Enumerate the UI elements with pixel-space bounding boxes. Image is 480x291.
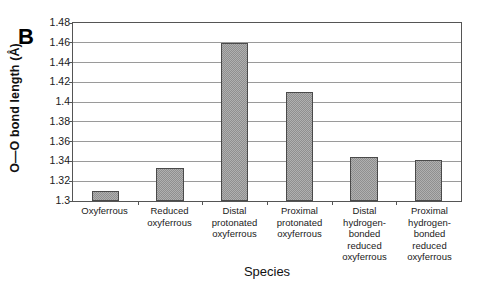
y-tick-mark	[69, 42, 73, 43]
x-tick-label: Oxyferrous	[72, 205, 137, 267]
x-tick-label: Distalprotonatedoxyferrous	[202, 205, 267, 267]
x-axis-title: Species	[72, 264, 462, 279]
y-tick-mark	[69, 82, 73, 83]
x-tick-label-line: oxyferrous	[138, 217, 201, 229]
y-tick-mark	[69, 23, 73, 24]
y-tick-mark	[69, 161, 73, 162]
y-tick-mark	[69, 102, 73, 103]
y-tick-mark	[69, 121, 73, 122]
bar	[221, 43, 248, 201]
gridline	[73, 121, 461, 122]
gridline	[73, 141, 461, 142]
plot-area	[72, 22, 462, 202]
y-tick-mark	[69, 141, 73, 142]
y-tick-mark	[69, 201, 73, 202]
gridline	[73, 161, 461, 162]
x-tick-label: Distalhydrogen-bondedreducedoxyferrous	[332, 205, 397, 267]
x-tick-label-line: Proximal	[268, 205, 331, 217]
x-tick-label-line: reduced	[333, 240, 396, 252]
bar	[415, 160, 442, 201]
x-axis-tick-labels: OxyferrousReducedoxyferrousDistalprotona…	[72, 205, 462, 267]
x-tick-label-line: protonated	[268, 217, 331, 229]
x-tick-label: Proximalhydrogen-bondedreducedoxyferrous	[397, 205, 462, 267]
x-tick-label-line: reduced	[398, 240, 461, 252]
y-axis-title-text: O—O bond length (Å)	[8, 43, 22, 173]
x-tick-label: Reducedoxyferrous	[137, 205, 202, 267]
panel-label-b: B	[18, 26, 34, 48]
x-tick-label-line: bonded	[398, 228, 461, 240]
x-tick-label-line: oxyferrous	[268, 228, 331, 240]
y-tick-mark	[69, 181, 73, 182]
y-tick-label: 1.38	[34, 116, 70, 127]
x-tick-label-line: Distal	[203, 205, 266, 217]
y-tick-label: 1.48	[34, 17, 70, 28]
y-tick-label: 1.3	[34, 195, 70, 206]
x-tick-label-line: Reduced	[138, 205, 201, 217]
y-axis-tick-labels: 1.481.461.441.421.41.381.361.341.321.3	[30, 0, 70, 291]
x-tick-label-line: oxyferrous	[398, 251, 461, 263]
y-tick-mark	[69, 62, 73, 63]
x-tick-label-line: Proximal	[398, 205, 461, 217]
y-tick-label: 1.34	[34, 155, 70, 166]
x-tick-label-line: hydrogen-	[398, 217, 461, 229]
bar	[92, 191, 119, 201]
x-tick-label-line: Distal	[333, 205, 396, 217]
x-tick-label-line: hydrogen-	[333, 217, 396, 229]
gridline	[73, 82, 461, 83]
x-tick-label-line: oxyferrous	[333, 251, 396, 263]
bar	[156, 168, 183, 201]
bar	[286, 92, 313, 201]
x-tick-label: Proximalprotonatedoxyferrous	[267, 205, 332, 267]
y-tick-label: 1.44	[34, 56, 70, 67]
y-tick-label: 1.46	[34, 37, 70, 48]
gridline	[73, 102, 461, 103]
x-tick-label-line: bonded	[333, 228, 396, 240]
y-tick-label: 1.42	[34, 76, 70, 87]
gridline	[73, 62, 461, 63]
bar	[350, 157, 377, 202]
x-tick-label-line: Oxyferrous	[73, 205, 136, 217]
y-tick-label: 1.4	[34, 96, 70, 107]
gridline	[73, 42, 461, 43]
gridline	[73, 181, 461, 182]
bar-chart-figure: O—O bond length (Å) 1.481.461.441.421.41…	[0, 0, 480, 291]
x-tick-label-line: protonated	[203, 217, 266, 229]
y-tick-label: 1.36	[34, 135, 70, 146]
x-tick-label-line: oxyferrous	[203, 228, 266, 240]
y-tick-label: 1.32	[34, 175, 70, 186]
